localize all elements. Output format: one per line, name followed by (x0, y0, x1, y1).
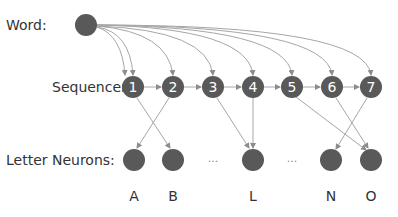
letter-label-l: L (249, 188, 257, 204)
sequencer-node-label: 2 (169, 79, 178, 95)
word-node (75, 14, 97, 36)
letter-labels: A B L N O (129, 188, 376, 204)
letter-label-a: A (129, 188, 139, 204)
sequencer-node-7: 7 (360, 76, 382, 98)
letter-neurons-row-label: Letter Neurons: (6, 152, 115, 168)
sequencer-node-label: 4 (249, 79, 258, 95)
letter-node-l (242, 149, 264, 171)
word-row-label: Word: (6, 17, 47, 33)
letter-label-b: B (168, 188, 178, 204)
ellipsis-2: ... (287, 152, 298, 165)
sequencer-node-3: 3 (202, 76, 224, 98)
sequencer-node-label: 3 (209, 79, 218, 95)
sequencer-to-letter-edges (137, 97, 368, 150)
sequencer-node-2: 2 (162, 76, 184, 98)
letter-label-o: O (365, 188, 376, 204)
sequencer-node-4: 4 (242, 76, 264, 98)
sequencer-node-6: 6 (321, 76, 343, 98)
letter-node-o (360, 149, 382, 171)
sequencer-row-label: Sequencer: (52, 79, 131, 95)
letter-node-a (123, 149, 145, 171)
word-to-sequencer-edges (97, 25, 371, 75)
letter-nodes (123, 149, 382, 171)
balloon-network-diagram: Word: Sequencer: Letter Neurons: 1 2 (0, 0, 398, 217)
letter-label-n: N (326, 188, 336, 204)
sequencer-node-label: 6 (328, 79, 337, 95)
letter-node-b (162, 149, 184, 171)
sequencer-node-label: 7 (367, 79, 376, 95)
sequencer-node-5: 5 (281, 76, 303, 98)
sequencer-node-label: 1 (129, 79, 138, 95)
sequencer-node-label: 5 (288, 79, 297, 95)
letter-node-n (320, 149, 342, 171)
sequencer-node-1: 1 (122, 76, 144, 98)
ellipsis-1: ... (208, 152, 219, 165)
